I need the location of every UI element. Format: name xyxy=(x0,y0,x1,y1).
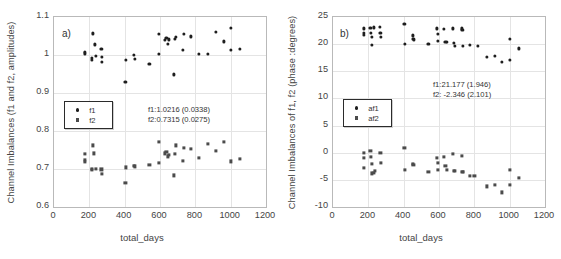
data-point-af2 xyxy=(436,161,439,164)
gridline-horizontal xyxy=(54,131,266,132)
x-axis-title-a: total_days xyxy=(42,232,242,243)
data-point-f1 xyxy=(189,35,192,38)
y-axis-tick-label: 5 xyxy=(298,119,328,129)
gridline-horizontal xyxy=(333,71,545,72)
data-point-af2 xyxy=(370,163,373,166)
legend-b: af1 af2 xyxy=(343,99,392,127)
y-axis-tick-label: 0.7 xyxy=(19,162,49,172)
data-point-f2 xyxy=(229,160,232,163)
data-point-af2 xyxy=(460,154,463,157)
y-axis-tick-label: 0 xyxy=(298,146,328,156)
data-point-f2 xyxy=(174,152,177,155)
data-point-af2 xyxy=(437,168,440,171)
legend-label-af1: af1 xyxy=(368,104,384,113)
gridline-vertical xyxy=(474,17,475,207)
data-point-af2 xyxy=(427,170,430,173)
data-point-af1 xyxy=(370,35,373,38)
y-axis-tick-label: 25 xyxy=(298,10,328,20)
legend-item-af1: af1 xyxy=(349,103,384,113)
data-point-af1 xyxy=(427,43,430,46)
x-axis-tick-label: 1000 xyxy=(492,210,526,220)
data-point-af2 xyxy=(461,171,464,174)
data-point-af1 xyxy=(371,43,374,46)
y-axis-tick-label: 1.1 xyxy=(19,10,49,20)
data-point-af1 xyxy=(485,55,488,58)
annotation-a: f1:1.0216 (0.0338) f2:0.7315 (0.0275) xyxy=(148,105,210,125)
data-point-f1 xyxy=(175,35,178,38)
legend-label-f1: f1 xyxy=(89,106,105,115)
x-axis-tick-label: 0 xyxy=(315,210,349,220)
data-point-af2 xyxy=(508,168,511,171)
gridline-vertical xyxy=(231,17,232,207)
data-point-f2 xyxy=(206,142,209,145)
legend-marker-circle-icon xyxy=(355,106,358,109)
x-axis-tick-label: 800 xyxy=(456,210,490,220)
y-axis-tick-label: -5 xyxy=(298,173,328,183)
data-point-f1 xyxy=(91,32,94,35)
gridline-horizontal xyxy=(54,169,266,170)
data-point-af2 xyxy=(473,174,476,177)
data-point-af1 xyxy=(452,27,455,30)
y-axis-tick-label: -10 xyxy=(298,200,328,210)
panel-label-a: a) xyxy=(62,28,71,39)
data-point-f1 xyxy=(168,38,171,41)
data-point-f1 xyxy=(133,58,136,61)
annotation-b: f1:21.177 (1.946) f2: -2.346 (2.101) xyxy=(433,80,491,100)
legend-marker-square-icon xyxy=(76,118,79,121)
legend-label-f2: f2 xyxy=(89,116,105,125)
data-point-af2 xyxy=(444,164,447,167)
annotation-a-line2: f2:0.7315 (0.0275) xyxy=(148,115,210,125)
data-point-af1 xyxy=(362,33,365,36)
data-point-af2 xyxy=(468,174,471,177)
annotation-a-line1: f1:1.0216 (0.0338) xyxy=(148,105,210,115)
data-point-af2 xyxy=(454,170,457,173)
data-point-af2 xyxy=(373,170,376,173)
data-point-f2 xyxy=(157,140,160,143)
data-point-f1 xyxy=(181,48,184,51)
data-point-af1 xyxy=(362,27,365,30)
data-point-f2 xyxy=(238,157,241,160)
x-axis-tick-label: 200 xyxy=(350,210,384,220)
legend-a: f1 f2 xyxy=(64,101,113,129)
data-point-f2 xyxy=(84,153,87,156)
data-point-af2 xyxy=(379,161,382,164)
data-point-af1 xyxy=(445,40,448,43)
data-point-f1 xyxy=(182,32,185,35)
data-point-af1 xyxy=(461,44,464,47)
gridline-horizontal xyxy=(54,55,266,56)
legend-item-f2: f2 xyxy=(70,115,105,125)
data-point-f1 xyxy=(100,56,103,59)
gridline-horizontal xyxy=(333,44,545,45)
panel-b: Channel Imbalances of f1, f2 (phase :deg… xyxy=(281,0,561,259)
data-point-f2 xyxy=(91,144,94,147)
data-point-af2 xyxy=(436,157,439,160)
x-axis-tick-label: 600 xyxy=(421,210,455,220)
data-point-af1 xyxy=(500,60,503,63)
data-point-f2 xyxy=(148,163,151,166)
legend-label-af2: af2 xyxy=(368,114,384,123)
data-point-f2 xyxy=(94,167,97,170)
data-point-f1 xyxy=(124,58,127,61)
data-point-f1 xyxy=(100,47,103,50)
data-point-f2 xyxy=(197,156,200,159)
x-axis-tick-label: 1200 xyxy=(248,210,282,220)
data-point-f2 xyxy=(181,159,184,162)
data-point-f2 xyxy=(168,153,171,156)
data-point-f1 xyxy=(166,42,169,45)
legend-marker-square-icon xyxy=(355,116,358,119)
data-point-af2 xyxy=(369,149,372,152)
data-point-af2 xyxy=(500,191,503,194)
annotation-b-line2: f2: -2.346 (2.101) xyxy=(433,90,491,100)
data-point-af1 xyxy=(508,38,511,41)
data-point-af1 xyxy=(468,43,471,46)
x-axis-tick-label: 400 xyxy=(386,210,420,220)
gridline-vertical xyxy=(125,17,126,207)
y-axis-tick-label: 0.9 xyxy=(19,86,49,96)
data-point-af2 xyxy=(445,168,448,171)
data-point-f1 xyxy=(238,47,241,50)
data-point-f2 xyxy=(100,172,103,175)
data-point-f1 xyxy=(100,61,103,64)
annotation-b-line1: f1:21.177 (1.946) xyxy=(433,80,491,90)
x-axis-tick-label: 600 xyxy=(142,210,176,220)
data-point-f1 xyxy=(93,43,96,46)
